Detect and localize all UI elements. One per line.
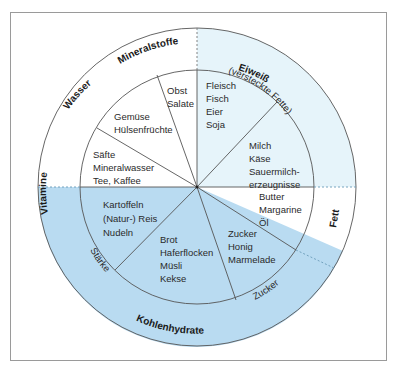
- segment-saefte: Säfte Mineralwasser Tee, Kaffee: [93, 149, 154, 186]
- svg-text:Haferflocken: Haferflocken: [160, 247, 213, 258]
- svg-text:Zucker: Zucker: [228, 228, 257, 239]
- center-dot: [196, 186, 199, 189]
- svg-text:Milch: Milch: [249, 140, 271, 151]
- label-fett: Fett: [327, 208, 341, 229]
- svg-text:Tee, Kaffee: Tee, Kaffee: [93, 175, 141, 186]
- svg-text:Obst: Obst: [167, 85, 187, 96]
- svg-text:Kartoffeln: Kartoffeln: [103, 199, 144, 210]
- svg-text:Brot: Brot: [160, 234, 178, 245]
- svg-text:Säfte: Säfte: [93, 149, 115, 160]
- svg-text:Käse: Käse: [249, 153, 271, 164]
- svg-text:Gemüse: Gemüse: [114, 111, 150, 122]
- svg-text:Soja: Soja: [206, 119, 226, 130]
- svg-text:Marmelade: Marmelade: [228, 254, 276, 265]
- svg-text:Butter: Butter: [259, 191, 284, 202]
- label-vitamine: Vitamine: [37, 171, 50, 215]
- segment-obst: Obst Salate: [167, 85, 194, 109]
- svg-text:Honig: Honig: [228, 241, 253, 252]
- svg-text:erzeugnisse: erzeugnisse: [249, 179, 300, 190]
- svg-text:Margarine: Margarine: [259, 204, 302, 215]
- label-mineralstoffe: Mineralstoffe: [115, 35, 179, 66]
- svg-text:Müsli: Müsli: [160, 260, 182, 271]
- svg-text:(Natur-) Reis: (Natur-) Reis: [103, 213, 158, 224]
- svg-text:Fisch: Fisch: [206, 93, 229, 104]
- svg-text:Eier: Eier: [206, 106, 223, 117]
- svg-text:Mineralwasser: Mineralwasser: [93, 162, 154, 173]
- svg-text:Fleisch: Fleisch: [206, 80, 236, 91]
- svg-text:Salate: Salate: [167, 98, 194, 109]
- svg-text:Hülsenfrüchte: Hülsenfrüchte: [114, 124, 173, 135]
- svg-text:Nudeln: Nudeln: [103, 227, 133, 238]
- svg-text:Öl: Öl: [259, 217, 269, 228]
- nutrition-wheel: Mineralstoffe Wasser Vitamine Eiweiß (ve…: [0, 0, 399, 369]
- segment-butter: Butter Margarine Öl: [259, 191, 302, 228]
- svg-text:Kekse: Kekse: [160, 273, 186, 284]
- svg-text:Sauermilch-: Sauermilch-: [249, 166, 300, 177]
- segment-gemuese: Gemüse Hülsenfrüchte: [114, 111, 173, 135]
